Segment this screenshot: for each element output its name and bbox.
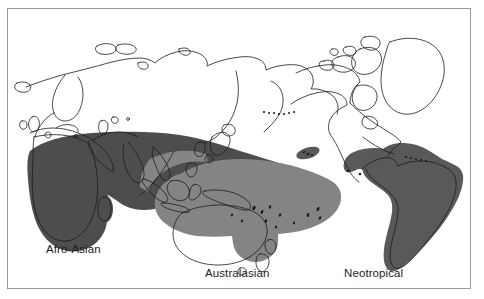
coastline-svalbard <box>96 44 117 55</box>
region-neotropical-caribbean-1 <box>408 157 416 161</box>
coastline-japan-hokkaido <box>222 124 235 136</box>
coastline-arctic-small-2 <box>330 49 338 56</box>
coastline-ireland <box>20 121 27 130</box>
coastline-scandinavia <box>53 75 84 121</box>
coastline-severnaya <box>138 62 148 69</box>
coastline-eurasia-arctic <box>26 51 338 114</box>
coastline-greenland <box>381 38 444 114</box>
coastline-europe-west <box>35 113 54 137</box>
region-australasian-shape <box>155 159 341 262</box>
coastline-lake-baikal <box>127 118 130 121</box>
coastline-britain <box>29 116 40 132</box>
region-label-neotropical: Neotropical <box>344 267 403 279</box>
coastline-novaya-zemlya <box>116 44 137 54</box>
coastline-alaska <box>291 92 347 134</box>
coastline-caspian <box>99 120 108 134</box>
coastline-hudson-bay <box>352 85 377 110</box>
coastline-kamchatka <box>264 81 283 132</box>
region-label-australasian: Australasian <box>205 267 269 279</box>
region-label-afro-asian: Afro-Asian <box>46 243 101 255</box>
map-frame: Afro-Asian Australasian Neotropical <box>7 8 471 289</box>
coastline-aral <box>111 117 118 124</box>
region-neotropical-shape <box>344 143 464 271</box>
figure-root: Afro-Asian Australasian Neotropical <box>0 0 484 299</box>
region-afro-asian-madagascar <box>96 195 113 223</box>
coastline-great-lakes <box>362 116 378 129</box>
coastline-aleutians <box>263 111 295 115</box>
coastline-iceland <box>15 82 31 92</box>
